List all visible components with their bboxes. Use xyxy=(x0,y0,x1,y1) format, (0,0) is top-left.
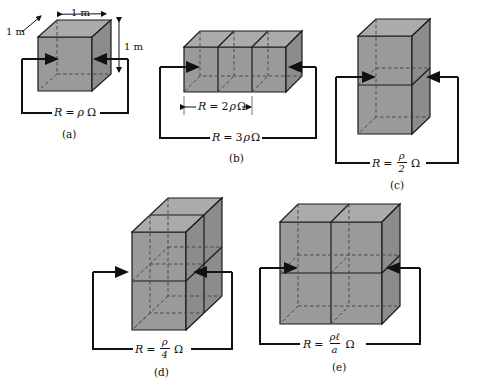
formula-c-denominator: 2 xyxy=(397,162,407,174)
formula-e-lhs: R xyxy=(303,339,311,350)
formula-c-lhs: R xyxy=(372,158,380,169)
cube-a xyxy=(38,20,111,91)
formula-b-coeff: 3 xyxy=(236,132,243,143)
inner-formula-b-coeff: 2 xyxy=(222,101,229,112)
cube-block-d xyxy=(132,198,222,330)
formula-b-equals: = xyxy=(223,132,232,143)
formula-d-ohm: Ω xyxy=(174,344,183,355)
formula-c: R = ρ 2 Ω xyxy=(372,152,420,175)
formula-b-rho: ρ xyxy=(244,132,250,143)
panel-a: 1 m 1 m 1 m R = ρ Ω (a) xyxy=(0,0,150,140)
formula-d-numerator: ρ xyxy=(160,337,170,348)
panel-b-graphic xyxy=(148,0,323,172)
formula-c-numerator: ρ xyxy=(397,151,407,162)
panel-d: R = ρ 4 Ω (d) xyxy=(75,192,255,384)
caption-e: (e) xyxy=(332,361,346,373)
inner-formula-b-equals: = xyxy=(209,101,218,112)
formula-b: R = 3 ρ Ω xyxy=(212,132,260,143)
formula-a: R = ρ Ω xyxy=(54,107,96,118)
formula-e-numerator: ρℓ xyxy=(328,332,342,343)
inner-formula-b-ohm: Ω xyxy=(237,101,246,112)
formula-e: R = ρℓ a Ω xyxy=(303,333,355,356)
formula-a-ohm: Ω xyxy=(87,107,96,118)
formula-a-equals: = xyxy=(65,107,74,118)
formula-e-equals: = xyxy=(314,339,323,350)
inner-formula-b: R = 2 ρ Ω xyxy=(198,101,246,112)
formula-b-lhs: R xyxy=(212,132,220,143)
formula-c-ohm: Ω xyxy=(411,158,420,169)
caption-a: (a) xyxy=(62,128,76,140)
formula-a-lhs: R xyxy=(54,107,62,118)
formula-a-rho: ρ xyxy=(78,107,84,118)
panel-c: R = ρ 2 Ω (c) xyxy=(322,0,495,200)
panel-b: R = 2 ρ Ω R = 3 ρ Ω (b) xyxy=(148,0,323,172)
formula-e-denominator: a xyxy=(330,343,340,355)
formula-d-lhs: R xyxy=(135,344,143,355)
cube-block-e xyxy=(280,204,400,324)
panel-a-graphic xyxy=(0,0,150,140)
formula-c-equals: = xyxy=(383,158,392,169)
formula-d: R = ρ 4 Ω xyxy=(135,338,183,361)
formula-e-fraction: ρℓ a xyxy=(328,332,342,355)
caption-d: (d) xyxy=(154,366,169,378)
inner-formula-b-lhs: R xyxy=(198,101,206,112)
dimension-label-width-a: 1 m xyxy=(71,7,90,18)
dimension-label-depth-a: 1 m xyxy=(6,26,25,37)
caption-c: (c) xyxy=(390,179,404,191)
resistance-cubes-figure: 1 m 1 m 1 m R = ρ Ω (a) xyxy=(0,0,495,384)
inner-formula-b-rho: ρ xyxy=(230,101,236,112)
panel-e: R = ρℓ a Ω (e) xyxy=(248,192,443,384)
formula-e-ohm: Ω xyxy=(346,339,355,350)
cube-row-b xyxy=(184,31,302,92)
formula-c-fraction: ρ 2 xyxy=(397,151,407,174)
formula-b-ohm: Ω xyxy=(251,132,260,143)
dimension-label-height-a: 1 m xyxy=(124,41,143,52)
formula-d-fraction: ρ 4 xyxy=(160,337,170,360)
caption-b: (b) xyxy=(229,152,244,164)
formula-d-denominator: 4 xyxy=(160,348,170,360)
formula-d-equals: = xyxy=(146,344,155,355)
